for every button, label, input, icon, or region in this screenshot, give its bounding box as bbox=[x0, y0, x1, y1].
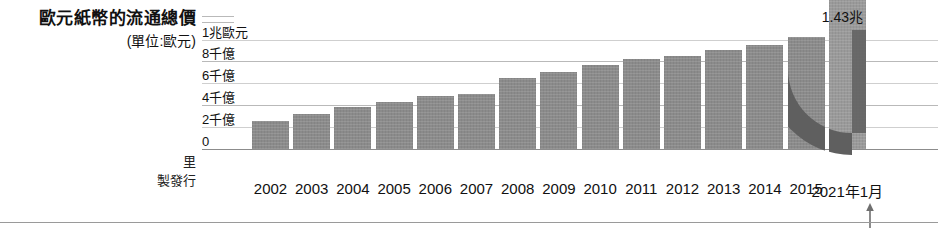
bar-texture bbox=[746, 45, 783, 149]
bar-2005 bbox=[376, 102, 413, 149]
bar-2014 bbox=[746, 45, 783, 149]
bar-texture bbox=[458, 94, 495, 149]
title-subtitle: (單位:歐元) bbox=[0, 32, 196, 50]
bar-2015 bbox=[788, 37, 825, 149]
bar-texture bbox=[293, 114, 330, 149]
credit-line-1: 里 bbox=[0, 153, 196, 172]
bar-texture bbox=[705, 50, 742, 149]
bar-texture bbox=[334, 107, 371, 149]
footer-divider bbox=[0, 222, 938, 223]
bar-2007 bbox=[458, 94, 495, 149]
bar-2013 bbox=[705, 50, 742, 149]
bar-2009 bbox=[540, 72, 577, 149]
bar-texture bbox=[417, 96, 454, 149]
bar-2002 bbox=[252, 121, 289, 149]
page-title: 歐元紙幣的流通總價 bbox=[0, 8, 196, 29]
bar-texture bbox=[582, 65, 619, 149]
bar-texture bbox=[788, 37, 825, 149]
bar-texture bbox=[540, 72, 577, 149]
x-tick-2021年1月: 2021年1月 bbox=[802, 180, 892, 201]
bar-2003 bbox=[293, 114, 330, 149]
bar-texture bbox=[252, 121, 289, 149]
bar-2010 bbox=[582, 65, 619, 149]
bar-texture bbox=[376, 102, 413, 149]
bar-texture bbox=[499, 78, 536, 149]
bar-2012 bbox=[664, 56, 701, 149]
credit-line-2: 製發行 bbox=[0, 172, 196, 191]
x-axis-tick-labels: 2002200320042005200620072008200920102011… bbox=[202, 180, 938, 202]
data-label-2021: 1.43兆 bbox=[822, 6, 863, 26]
arrow-up-icon bbox=[202, 200, 938, 229]
plot-area: 02千億4千億6千億8千億1兆歐元 1.43兆 2002200320042005… bbox=[202, 0, 938, 229]
chart-figure: 歐元紙幣的流通總價 (單位:歐元) 里 製發行 02千億4千億6千億8千億1兆歐… bbox=[0, 0, 938, 229]
bar-2006 bbox=[417, 96, 454, 149]
bar-2011 bbox=[623, 59, 660, 149]
bar-texture bbox=[623, 59, 660, 149]
bar-texture bbox=[664, 56, 701, 149]
credits-block: 里 製發行 bbox=[0, 153, 196, 191]
bar-2004 bbox=[334, 107, 371, 149]
bars-group bbox=[202, 0, 938, 200]
title-block: 歐元紙幣的流通總價 (單位:歐元) bbox=[0, 8, 196, 50]
bar-2008 bbox=[499, 78, 536, 149]
